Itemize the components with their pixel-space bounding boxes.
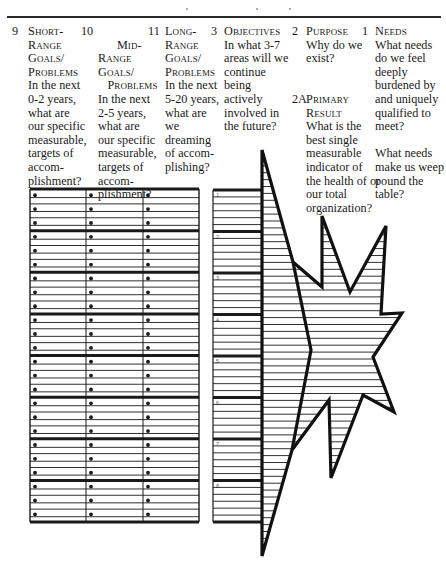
- objectives-grid: 12345678: [213, 150, 262, 556]
- starburst-outline: [262, 150, 402, 556]
- starburst-hatching: [262, 152, 410, 552]
- planning-worksheet-graphic: 12345678: [0, 0, 446, 572]
- goals-grid: [30, 189, 199, 522]
